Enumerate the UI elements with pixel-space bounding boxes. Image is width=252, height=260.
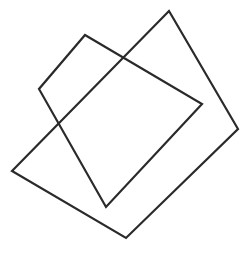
square-a-outline [12,11,238,238]
diagram-canvas [0,0,252,260]
overlapping-squares-diagram [0,0,252,260]
